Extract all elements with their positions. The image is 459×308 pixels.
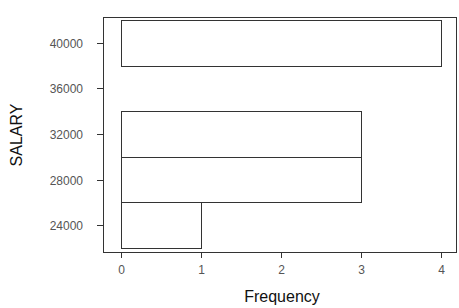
y-tick-label: 28000 — [50, 174, 84, 188]
y-axis: 2400028000320003600040000 — [50, 37, 103, 233]
x-tick-label: 4 — [438, 263, 445, 277]
histogram-bar-2 — [122, 112, 362, 158]
x-tick-label: 0 — [118, 263, 125, 277]
y-tick-label: 40000 — [50, 37, 84, 51]
x-axis-title: Frequency — [244, 288, 320, 305]
y-tick-label: 24000 — [50, 219, 84, 233]
bars — [122, 21, 442, 249]
histogram-chart: 012342400028000320003600040000FrequencyS… — [0, 0, 459, 308]
x-axis: 01234 — [118, 252, 445, 277]
histogram-bar-0 — [122, 203, 202, 249]
x-tick-label: 1 — [198, 263, 205, 277]
histogram-bar-1 — [122, 158, 362, 203]
x-tick-label: 2 — [278, 263, 285, 277]
y-tick-label: 36000 — [50, 82, 84, 96]
y-tick-label: 32000 — [50, 128, 84, 142]
histogram-bar-4 — [122, 21, 442, 67]
x-tick-label: 3 — [358, 263, 365, 277]
y-axis-title: SALARY — [8, 103, 25, 166]
